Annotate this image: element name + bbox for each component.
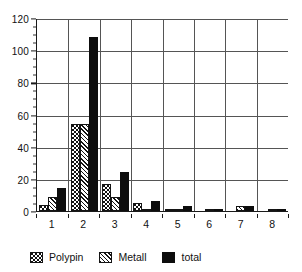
x-tick (99, 214, 100, 218)
metall-swatch (99, 252, 112, 263)
x-tick (36, 214, 37, 218)
x-tick-label: 8 (257, 214, 289, 234)
bar-group (225, 19, 256, 211)
legend-label: Polypin (49, 251, 83, 263)
total-swatch (162, 252, 175, 263)
x-tick (162, 214, 163, 218)
x-tick (68, 214, 69, 218)
plot-area (36, 19, 288, 212)
x-tick (225, 214, 226, 218)
y-tick-label: 120 (12, 14, 29, 25)
bar-group (194, 19, 225, 211)
bar-group (131, 19, 162, 211)
bar-group (100, 19, 131, 211)
x-tick-label: 6 (194, 214, 226, 234)
chart-legend: PolypinMetalltotal (30, 248, 280, 266)
legend-item: total (162, 251, 201, 263)
x-tick-label: 2 (68, 214, 100, 234)
y-tick-label: 20 (17, 174, 29, 185)
bar-metall (268, 209, 277, 211)
bar-metall (236, 206, 245, 211)
legend-item: Polypin (30, 251, 83, 263)
bar-total (214, 209, 223, 211)
y-tick-label: 0 (23, 207, 29, 218)
bar-metall (174, 209, 183, 211)
bar-total (151, 201, 160, 211)
x-tick (131, 214, 132, 218)
bar-metall (48, 197, 57, 211)
bar-group (68, 19, 99, 211)
bar-polypin (102, 184, 111, 211)
legend-label: total (181, 251, 201, 263)
bar-metall (111, 197, 120, 211)
x-tick (194, 214, 195, 218)
bar-metall (142, 209, 151, 211)
x-axis: 12345678 (36, 214, 288, 234)
polypin-swatch (30, 252, 43, 263)
bar-polypin (133, 203, 142, 211)
bar-groups (37, 19, 288, 211)
x-tick (257, 214, 258, 218)
bar-polypin (71, 124, 80, 211)
x-tick-label: 4 (131, 214, 163, 234)
bar-polypin (165, 209, 174, 211)
bar-group (257, 19, 288, 211)
bar-total (183, 206, 192, 211)
x-tick-label: 7 (225, 214, 257, 234)
bar-total (277, 209, 286, 211)
bar-chart: 020406080100120 12345678 PolypinMetallto… (0, 0, 302, 272)
y-axis: 020406080100120 (0, 0, 36, 212)
bar-total (120, 172, 129, 211)
bar-total (89, 37, 98, 211)
legend-label: Metall (118, 251, 146, 263)
bar-polypin (39, 205, 48, 211)
x-tick-label: 5 (162, 214, 194, 234)
x-tick-label: 1 (36, 214, 68, 234)
y-tick-label: 40 (17, 142, 29, 153)
bar-total (57, 188, 66, 211)
x-tick (288, 214, 289, 218)
y-tick-label: 60 (17, 110, 29, 121)
x-tick-label: 3 (99, 214, 131, 234)
legend-item: Metall (99, 251, 146, 263)
bar-total (245, 206, 254, 211)
bar-group (37, 19, 68, 211)
bar-group (163, 19, 194, 211)
bar-metall (205, 209, 214, 211)
y-tick-label: 100 (12, 46, 29, 57)
y-tick-label: 80 (17, 78, 29, 89)
bar-metall (80, 124, 89, 211)
